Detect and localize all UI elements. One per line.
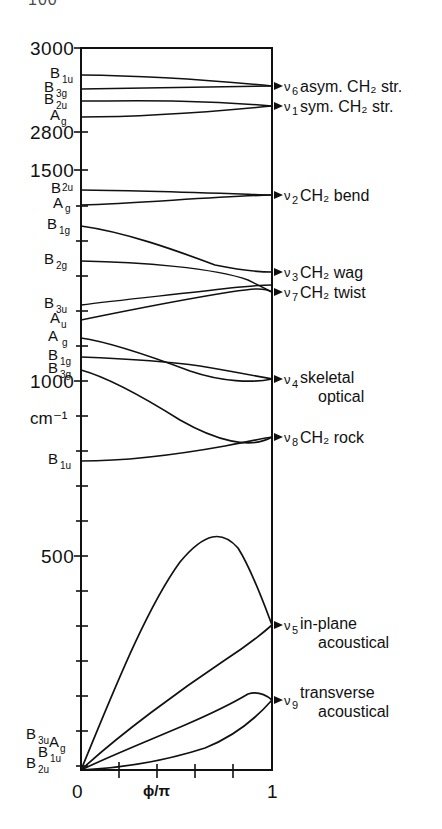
- figure-svg: 3000 2800 1500 1000 500 cm⁻¹ B1u B3g B2u…: [0, 0, 442, 829]
- symmetry-sub: g: [62, 337, 68, 348]
- mode-nu-sub: 7: [292, 291, 298, 303]
- clipped-page-number: 100: [28, 0, 58, 9]
- mode-label-text: transverse: [300, 684, 375, 701]
- mode-label-text-line2: optical: [318, 388, 364, 405]
- mode-arrow: [274, 191, 283, 199]
- mode-label-nu8: ν 8 CH₂ rock: [284, 429, 365, 448]
- y-tick-label: 2800: [30, 122, 74, 143]
- curve-nu6-b3g: [81, 86, 272, 89]
- curve-nu3-b1g: [81, 226, 272, 272]
- symmetry-main: A: [48, 327, 58, 344]
- symmetry-label: Ag: [53, 194, 71, 214]
- mode-label-nu2: ν 2 CH₂ bend: [284, 187, 369, 206]
- curve-nu9-upper: [81, 693, 272, 770]
- mode-nu-sub: 9: [292, 699, 298, 711]
- mode-label-text-line2: acoustical: [318, 634, 389, 651]
- symmetry-sub: u: [61, 319, 67, 330]
- symmetry-main: A: [49, 733, 59, 750]
- mode-nu-symbol: ν: [284, 430, 291, 445]
- symmetry-sub: g: [65, 203, 71, 214]
- mode-nu-sub: 5: [292, 624, 298, 636]
- curve-nu6-b1u: [81, 75, 272, 86]
- x-axis-labels: 0 1 ϕ/π: [72, 781, 278, 802]
- y-axis-unit: cm⁻¹: [30, 409, 68, 428]
- symmetry-label: B2g: [44, 250, 67, 271]
- symmetry-main: A: [50, 106, 60, 123]
- curve-nu5-lower: [81, 536, 272, 770]
- curve-nu4-b3g: [81, 357, 272, 379]
- curve-nu4-ag: [81, 338, 272, 381]
- mode-nu-sub: 4: [292, 378, 298, 390]
- curve-nu8-b1u: [81, 437, 272, 461]
- symmetry-label: B1g: [47, 215, 70, 236]
- dispersion-figure: 100: [0, 0, 442, 829]
- symmetry-label: B1u: [48, 450, 71, 471]
- symmetry-label: Ag: [48, 327, 68, 348]
- mode-label-nu5: ν 5 in-plane acoustical: [284, 615, 389, 651]
- x-tick-label-left: 0: [72, 781, 83, 802]
- mode-label-text: in-plane: [300, 615, 357, 632]
- symmetry-sub: 3g: [56, 88, 67, 99]
- symmetry-sub: 3g: [60, 369, 71, 380]
- mode-nu-sub: 2: [292, 194, 298, 206]
- mode-nu-symbol: ν: [284, 693, 291, 708]
- symmetry-main: B: [48, 450, 58, 467]
- y-tick-label: 1500: [30, 160, 74, 181]
- mode-label-text: sym. CH₂ str.: [300, 98, 393, 115]
- mode-nu-sub: 1: [292, 105, 298, 117]
- mode-nu-symbol: ν: [284, 285, 291, 300]
- symmetry-main: B: [38, 743, 48, 760]
- curve-nu1-b2u: [81, 101, 272, 106]
- mode-label-text: asym. CH₂ str.: [300, 78, 402, 95]
- y-tick-label: 3000: [30, 38, 74, 59]
- symmetry-main: B: [26, 725, 36, 742]
- mode-nu-sub: 3: [292, 271, 298, 283]
- mode-label-nu7: ν 7 CH₂ twist: [284, 284, 366, 303]
- mode-arrow: [274, 268, 283, 276]
- mode-labels: ν 6 asym. CH₂ str. ν 1 sym. CH₂ str. ν 2…: [284, 78, 402, 720]
- curve-nu2-ag: [81, 195, 272, 205]
- mode-label-text: CH₂ rock: [300, 429, 365, 446]
- symmetry-main: B: [44, 90, 54, 107]
- mode-nu-sub: 8: [292, 436, 298, 448]
- curve-nu9-lower: [81, 700, 272, 770]
- mode-arrow: [274, 82, 283, 90]
- mode-nu-symbol: ν: [284, 618, 291, 633]
- symmetry-main: B: [26, 754, 36, 771]
- mode-label-nu3: ν 3 CH₂ wag: [284, 264, 363, 283]
- mode-arrow: [274, 433, 283, 441]
- symmetry-main: B: [47, 215, 57, 232]
- mode-label-nu1: ν 1 sym. CH₂ str.: [284, 98, 393, 117]
- symmetry-main: A: [53, 194, 63, 211]
- mode-arrow: [274, 102, 283, 110]
- symmetry-sub: 1u: [62, 74, 73, 85]
- mode-label-nu9: ν 9 transverse acoustical: [284, 684, 389, 720]
- mode-label-text: CH₂ twist: [300, 284, 366, 301]
- dispersion-curves: [81, 75, 272, 770]
- mode-label-text: CH₂ bend: [300, 187, 369, 204]
- symmetry-sub: 1u: [50, 753, 61, 764]
- mode-label-text: CH₂ wag: [300, 264, 363, 281]
- symmetry-label: Ag: [49, 733, 66, 754]
- plot-frame: [81, 48, 272, 770]
- curve-nu1-ag: [81, 106, 272, 117]
- symmetry-main: B: [48, 359, 58, 376]
- mode-label-text-line2: acoustical: [318, 703, 389, 720]
- mode-arrow: [274, 621, 283, 629]
- mode-arrow: [274, 288, 283, 296]
- mode-nu-symbol: ν: [284, 265, 291, 280]
- y-axis-unit-label: cm⁻¹: [30, 409, 68, 428]
- symmetry-sub: 1g: [59, 225, 70, 236]
- mode-arrow: [274, 696, 283, 704]
- symmetry-sub: 1g: [60, 356, 71, 367]
- y-tick-label: 500: [41, 546, 74, 567]
- symmetry-sub: 2u: [38, 764, 49, 775]
- symmetry-sub: g: [61, 116, 67, 127]
- mode-label-text: skeletal: [300, 369, 354, 386]
- curve-nu2-b2u: [81, 190, 272, 195]
- mode-label-nu4: ν 4 skeletal optical: [284, 369, 364, 405]
- mode-nu-symbol: ν: [284, 372, 291, 387]
- mode-arrow: [274, 375, 283, 383]
- x-axis-title: ϕ/π: [143, 782, 170, 799]
- symmetry-sub: 2g: [56, 260, 67, 271]
